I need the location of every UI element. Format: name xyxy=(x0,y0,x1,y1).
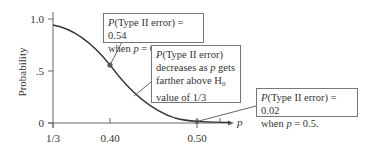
annotation-text: farther above H xyxy=(156,75,222,86)
annotation-text: = 0.5. xyxy=(292,118,319,129)
leader-line-2 xyxy=(134,82,151,96)
annotation-text: (Type II error) = 0.02 xyxy=(261,92,336,116)
x-label-040: 0.40 xyxy=(100,132,120,144)
y-label-0: 0 xyxy=(39,117,45,129)
annotation-text: (Type II error) = 0.54 xyxy=(108,17,183,41)
annotation-text: decreases as xyxy=(156,62,210,73)
annotation-box-3: P(Type II error) = 0.02 when p = 0.5. xyxy=(256,88,358,117)
annotation-box-2: P(Type II error) decreases as p gets far… xyxy=(151,45,241,103)
y-label-1: 1.0 xyxy=(30,13,44,25)
leader-line-3 xyxy=(197,106,256,122)
x-axis-title: p xyxy=(236,116,243,128)
y-label-05: .5 xyxy=(36,65,45,77)
annotation-text: (Type II error) xyxy=(162,49,222,60)
annotation-subscript: 0 xyxy=(222,80,226,88)
x-label-1-3: 1/3 xyxy=(46,132,61,144)
annotation-text: value of 1/3 xyxy=(156,92,206,103)
x-label-050: 0.50 xyxy=(187,132,207,144)
annotation-text: when xyxy=(108,43,133,54)
annotation-text: when xyxy=(261,118,286,129)
y-axis-title: Probability xyxy=(16,47,28,96)
annotation-text: gets xyxy=(215,62,235,73)
annotation-box-1: P(Type II error) = 0.54 when p = 0.40 xyxy=(103,13,204,43)
